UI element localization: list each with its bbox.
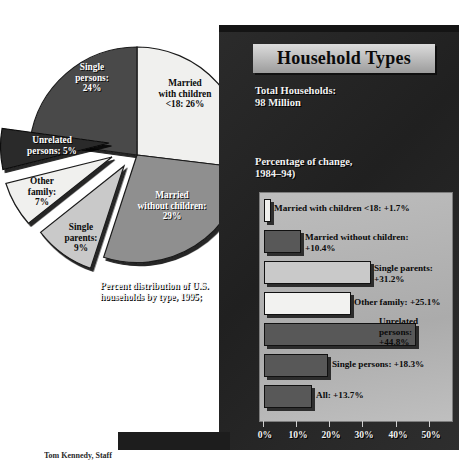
panel-top-edge [219,25,459,32]
axis-tick-0 [263,421,264,427]
change-bar-chart: Married with children <18: +1.7% Married… [259,192,453,422]
bar-other-family [264,292,351,315]
total-households-label: Total Households: [255,85,435,97]
pie-label-other-family: Other family: 7% [14,176,70,208]
bar-label-all: All: +13.7% [316,390,436,401]
page-title: Household Types [277,48,411,69]
pct-change-line2: 1984–94) [255,168,435,180]
pie-label-married-with-children: Married with children <18: 26% [143,78,227,110]
bar-label-other-family: Other family: +25.1% [354,297,454,308]
axis-tick-20 [329,421,330,427]
bar-label-single-parents: Single parents: +31.2% [374,263,454,284]
pie-label-unrelated-persons: Unrelated persons: 5% [9,135,95,156]
axis-label-20: 20% [321,429,340,440]
pie-label-single-parents: Single parents: 9% [52,222,110,254]
footer-credit: Tom Kennedy, Staff [44,451,224,461]
bar-label-single-persons: Single persons: +18.3% [332,359,452,370]
pie-label-single-persons: Single persons: 24% [56,62,128,94]
axis-tick-50 [429,421,430,427]
axis-tick-30 [362,421,363,427]
pct-change-line1: Percentage of change, [255,156,435,168]
pie-chart-caption: Percent distribution of U.S. households … [100,281,230,303]
axis-label-30: 30% [354,429,373,440]
pie-label-married-without-children: Married without children: 29% [120,190,224,222]
total-households-value: 98 Million [255,97,435,109]
axis-label-10: 10% [288,429,307,440]
bar-chart-axis [259,421,451,429]
total-households-block: Total Households: 98 Million [255,85,435,109]
infographic-root: Single persons: 24% Married with childre… [0,0,459,462]
axis-label-0: 0% [258,429,272,440]
panel-title-plate: Household Types [253,44,435,73]
bar-married-without-children [264,230,301,253]
bar-married-with-children [264,199,271,222]
footer-strip [118,432,230,450]
bar-all [264,385,312,408]
axis-label-40: 40% [388,429,407,440]
bar-label-married-without-children: Married without children: +10.4% [305,232,455,253]
axis-label-50: 50% [421,429,440,440]
bar-single-persons [264,354,328,377]
axis-tick-10 [296,421,297,427]
axis-tick-40 [396,421,397,427]
bar-label-married-with-children: Married with children <18: +1.7% [274,203,450,214]
percentage-of-change-heading: Percentage of change, 1984–94) [255,156,435,180]
pie-chart: Single persons: 24% Married with childre… [0,0,230,300]
bar-single-parents [264,261,371,284]
bar-label-unrelated-persons: Unrelated persons: +44.8% [379,316,453,348]
bar-chart-axis-labels: 0% 10% 20% 30% 40% 50% [247,429,459,443]
